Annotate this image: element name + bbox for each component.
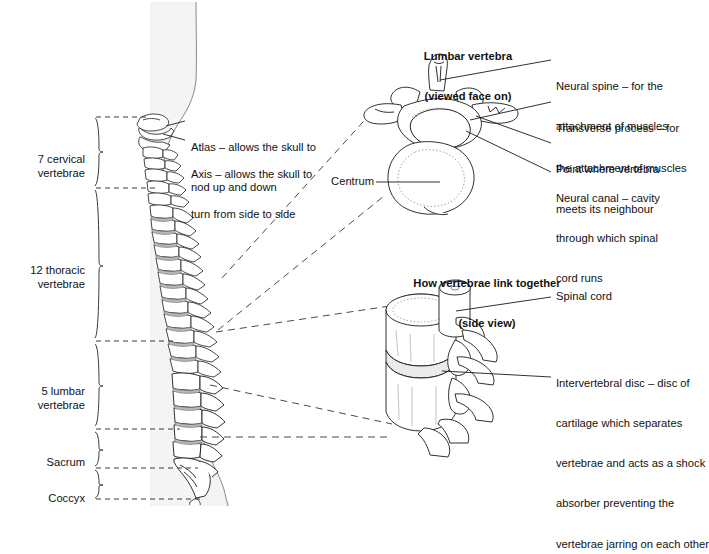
linkage-title-line2: (side view) — [378, 317, 596, 330]
label-spinal-cord: Spinal cord — [556, 290, 612, 303]
region-label-thoracic: 12 thoracic vertebrae — [0, 251, 85, 305]
callout-axis-line1: Axis – allows the skull to — [191, 168, 312, 181]
label-neural-spine-line1: Neural spine – for the — [556, 80, 668, 93]
label-neural-canal-line1: Neural canal – cavity — [556, 192, 660, 205]
label-intervertebral-disc-line1: Intervertebral disc – disc of — [556, 377, 709, 390]
region-label-cervical: 7 cervical vertebrae — [0, 140, 85, 194]
callout-axis-line2: turn from side to side — [191, 208, 312, 221]
region-label-sacrum: Sacrum — [0, 443, 85, 483]
linkage-title-line1: How vertebrae link together — [378, 277, 596, 290]
label-intervertebral-disc-line5: vertebrae jarring on each other — [556, 538, 709, 551]
lumbar-vertebra-title-line2: (viewed face on) — [378, 90, 558, 103]
callout-axis: Axis – allows the skull to turn from sid… — [191, 141, 312, 248]
linkage-title: How vertebrae link together (side view) — [378, 250, 596, 357]
region-label-lumbar: 5 lumbar vertebrae — [0, 372, 85, 426]
label-intervertebral-disc-line2: cartilage which separates — [556, 417, 709, 430]
region-label-coccyx: Coccyx — [0, 479, 85, 519]
label-intervertebral-disc-line3: vertebrae and acts as a shock — [556, 457, 709, 470]
label-neural-canal-line2: through which spinal — [556, 232, 660, 245]
label-centrum: Centrum — [306, 175, 374, 188]
label-intervertebral-disc: Intervertebral disc – disc of cartilage … — [556, 350, 709, 554]
lumbar-vertebra-title: Lumbar vertebra (viewed face on) — [378, 23, 558, 130]
label-intervertebral-disc-line4: absorber preventing the — [556, 497, 709, 510]
region-braces — [95, 118, 103, 498]
label-transverse-process-line1: Transverse process – for — [556, 122, 687, 135]
lumbar-vertebra-title-line1: Lumbar vertebra — [378, 50, 558, 63]
